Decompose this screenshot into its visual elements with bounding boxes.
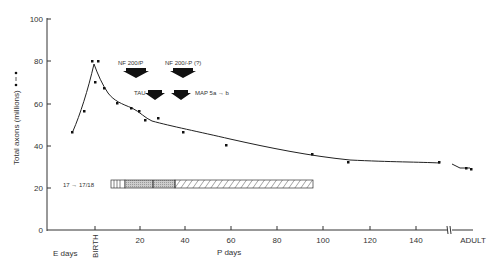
y-axis: 100 80 60 40 20 0 <box>30 15 51 235</box>
x-tick-20: 20 <box>136 236 145 245</box>
x-axis: BIRTH 20 40 60 80 100 120 140 ADULT E da… <box>47 226 486 258</box>
y-tick-80: 80 <box>34 57 43 66</box>
annotation-nf200p: NF 200/P <box>118 60 143 66</box>
y-axis-label: Total axons (millions) <box>12 90 21 165</box>
axon-count-chart: 100 80 60 40 20 0 BIRTH 20 40 60 80 100 … <box>0 0 502 269</box>
y-tick-60: 60 <box>34 100 43 109</box>
annotation-nf200-np: NF 200/-P (?) <box>165 60 201 66</box>
legend-marker <box>15 72 18 87</box>
data-points <box>71 60 473 171</box>
arrow-down-icon <box>145 90 165 100</box>
annotation-area-17: 17 → 17/18 <box>63 182 95 188</box>
arrow-down-icon <box>123 68 149 78</box>
x-tick-140: 140 <box>409 236 423 245</box>
annotation-tau: TAU <box>134 90 146 96</box>
arrow-down-icon <box>170 68 196 78</box>
x-label-p-days: P days <box>217 248 241 257</box>
x-tick-120: 120 <box>363 236 377 245</box>
x-label-e-days: E days <box>53 249 77 258</box>
x-tick-40: 40 <box>181 236 190 245</box>
y-tick-0: 0 <box>39 226 44 235</box>
x-tick-100: 100 <box>316 236 330 245</box>
annotation-map5a: MAP 5a → b <box>195 90 230 96</box>
x-tick-80: 80 <box>273 236 282 245</box>
y-tick-40: 40 <box>34 142 43 151</box>
x-tick-birth: BIRTH <box>91 234 100 258</box>
x-tick-adult: ADULT <box>460 236 486 245</box>
y-tick-20: 20 <box>34 184 43 193</box>
y-tick-100: 100 <box>30 15 44 24</box>
arrow-down-icon <box>171 90 191 100</box>
x-tick-60: 60 <box>227 236 236 245</box>
development-bar <box>111 180 313 188</box>
fitted-curve <box>73 64 470 168</box>
